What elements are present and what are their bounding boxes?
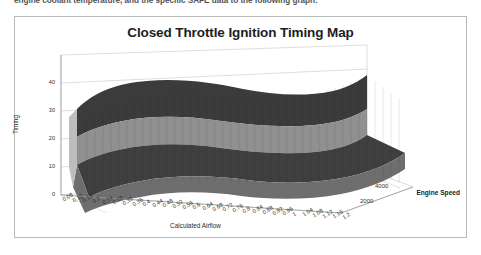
y-tick-10: 10: [41, 164, 55, 170]
y-axis-title: Timing: [12, 115, 19, 134]
z-axis-title: Engine Speed: [416, 189, 460, 196]
y-tick-40: 40: [41, 80, 55, 86]
y-tick-20: 20: [41, 136, 55, 142]
y-tick-0: 0: [41, 192, 55, 198]
z-tick-4000: 4000: [375, 183, 388, 189]
z-tick-2000: 2000: [360, 198, 373, 204]
surface-mesh: [69, 75, 405, 213]
chart-frame: Closed Throttle Ignition Timing Map: [14, 16, 467, 238]
y-tick-30: 30: [41, 108, 55, 114]
x-axis-title: Calculated Airflow: [15, 222, 466, 229]
document-cutoff-text: engine coolant temperature, and the spec…: [14, 0, 469, 8]
